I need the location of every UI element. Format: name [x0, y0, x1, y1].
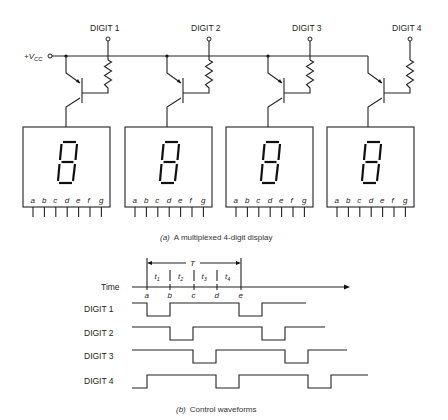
segment-pin-label: g [201, 196, 206, 205]
digit-terminal-icon [207, 37, 211, 41]
transistor-2-emitter [268, 98, 282, 127]
digit-terminal-icon [106, 37, 110, 41]
resistor-icon [384, 60, 414, 93]
segment-pin-label: c [53, 196, 57, 205]
segment-pin-label: a [234, 196, 239, 205]
time-mark-label: a [145, 291, 150, 300]
segment-b [380, 144, 382, 160]
interval-label: t2 [178, 272, 183, 282]
multiplexed-display-diagram: +VCC DIGIT 1abcdefgDIGIT 2abcdefgDIGIT 3… [0, 0, 448, 420]
segment-pin-label: e [380, 196, 385, 205]
time-axis-arrow-icon [344, 285, 350, 290]
transistor-1-collector [167, 56, 181, 83]
digit-label: DIGIT 4 [392, 23, 422, 33]
caption-a: (a)A multiplexed 4-digit display [160, 233, 273, 242]
caption-b: (b)Control waveforms [176, 405, 256, 414]
time-mark-label: d [215, 291, 220, 300]
digit-stage-3: DIGIT 3abcdefg [226, 23, 322, 217]
transistor-1-collector [268, 56, 282, 83]
segment-b [178, 144, 180, 160]
digit-terminal-icon [408, 37, 412, 41]
digit-stage-4: DIGIT 4abcdefg [327, 23, 422, 217]
seven-segment-display [23, 127, 110, 207]
segment-pin-label: b [346, 196, 351, 205]
transistor-1-collector [368, 56, 382, 83]
seven-segment-display [226, 127, 313, 207]
segment-e [261, 164, 263, 181]
digit-stage-2: DIGIT 2abcdefg [125, 23, 221, 217]
segment-pin-label: b [42, 196, 47, 205]
segment-pin-label: c [155, 196, 159, 205]
digit-label: DIGIT 3 [292, 23, 322, 33]
segment-e [160, 164, 162, 181]
waveform-digit-4 [132, 375, 368, 388]
segment-pin-label: c [256, 196, 260, 205]
vcc-supply: +VCC [24, 52, 368, 62]
resistor-icon [284, 60, 314, 93]
segment-f [60, 144, 62, 160]
segment-b [76, 144, 78, 160]
segment-pin-label: a [31, 196, 36, 205]
time-mark-label: b [168, 291, 173, 300]
resistor-icon [183, 60, 213, 93]
transistor-2-emitter [66, 98, 80, 127]
interval-label: t3 [202, 272, 208, 282]
segment-pin-label: e [178, 196, 183, 205]
segment-pin-label: d [65, 196, 70, 205]
segment-b [279, 144, 281, 160]
waveform-digit-2 [132, 327, 325, 340]
period-label: T [190, 259, 196, 268]
transistor-1-collector [66, 56, 80, 83]
transistor-2-emitter [368, 98, 382, 127]
segment-f [263, 144, 265, 160]
segment-f [364, 144, 366, 160]
time-mark-label: c [192, 291, 196, 300]
waveform-digit-3 [132, 350, 347, 363]
segment-pin-label: a [335, 196, 340, 205]
segment-pin-label: b [245, 196, 250, 205]
segment-pin-label: g [403, 196, 408, 205]
waveform-label: DIGIT 1 [84, 304, 114, 314]
segment-pin-label: g [302, 196, 307, 205]
waveform-digit-1 [132, 303, 306, 316]
segment-pin-label: b [144, 196, 149, 205]
digit-terminal-icon [308, 37, 312, 41]
seven-segment-display [125, 127, 212, 207]
segment-pin-label: g [99, 196, 104, 205]
segment-pin-label: d [268, 196, 273, 205]
transistor-2-emitter [167, 98, 181, 127]
segment-pin-label: e [76, 196, 81, 205]
digit-label: DIGIT 1 [90, 23, 120, 33]
waveform-label: DIGIT 4 [84, 376, 114, 386]
segment-pin-label: d [369, 196, 374, 205]
digit-stage-1: DIGIT 1abcdefg [23, 23, 120, 217]
segment-pin-label: d [167, 196, 172, 205]
segment-pin-label: e [279, 196, 284, 205]
segment-f [162, 144, 164, 160]
segment-pin-label: c [357, 196, 361, 205]
vcc-label: +VCC [24, 52, 43, 62]
vcc-terminal-icon [48, 54, 52, 58]
interval-label: t1 [155, 272, 160, 282]
resistor-icon [82, 60, 112, 93]
segment-e [58, 164, 60, 181]
segment-pin-label: a [133, 196, 138, 205]
waveform-label: DIGIT 2 [84, 328, 114, 338]
period-arrow-left-icon [147, 261, 152, 265]
time-mark-label: e [239, 291, 244, 300]
interval-label: t4 [225, 272, 230, 282]
period-arrow-right-icon [236, 261, 241, 265]
waveform-label: DIGIT 3 [84, 351, 114, 361]
seven-segment-display [327, 127, 414, 207]
time-axis-label: Time [101, 282, 120, 292]
segment-e [362, 164, 364, 181]
digit-label: DIGIT 2 [191, 23, 221, 33]
